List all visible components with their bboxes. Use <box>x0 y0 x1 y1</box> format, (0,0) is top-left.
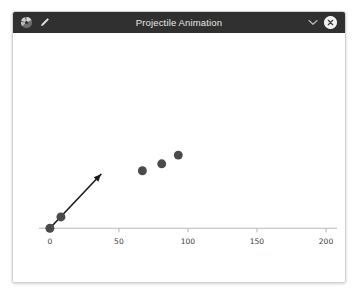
window-title: Projectile Animation <box>13 12 345 33</box>
chevron-down-icon[interactable] <box>307 17 318 28</box>
titlebar-window-controls <box>307 16 341 29</box>
projectile-marker <box>45 224 54 233</box>
projectile-marker <box>157 159 166 168</box>
app-window: Projectile Animation 050100150200 <box>12 11 346 283</box>
titlebar-left-icons <box>17 16 51 29</box>
plot-canvas[interactable]: 050100150200 <box>13 33 345 282</box>
projectile-scatter-plot: 050100150200 <box>13 33 345 282</box>
projectile-marker <box>174 151 183 160</box>
projectile-marker <box>138 166 147 175</box>
matplotlib-logo-icon[interactable] <box>20 16 33 29</box>
projectile-marker <box>56 212 65 221</box>
x-tick-label: 0 <box>47 237 52 246</box>
x-tick-label: 200 <box>319 237 334 246</box>
pencil-icon[interactable] <box>38 16 51 29</box>
x-tick-label: 50 <box>114 237 124 246</box>
x-tick-label: 100 <box>181 237 196 246</box>
window-title-bar[interactable]: Projectile Animation <box>13 12 345 33</box>
x-tick-label: 150 <box>250 237 265 246</box>
close-icon[interactable] <box>324 16 337 29</box>
